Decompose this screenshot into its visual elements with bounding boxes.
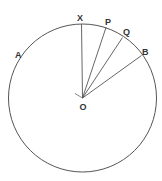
tick-mark-at-o [75,94,83,99]
point-label-p: P [105,17,111,27]
point-label-x: X [77,13,83,23]
radius-ob [83,56,142,99]
radius-op [83,28,107,99]
point-label-b: B [142,47,149,57]
radii-group [82,24,142,98]
circle-diagram: XPQBA O [0,0,162,181]
point-label-a: A [15,50,22,60]
radius-ox [82,24,83,98]
radius-oq [83,38,123,99]
point-label-o: O [80,102,87,112]
diagram-canvas: XPQBA O [0,0,162,181]
point-label-q: Q [123,27,130,37]
